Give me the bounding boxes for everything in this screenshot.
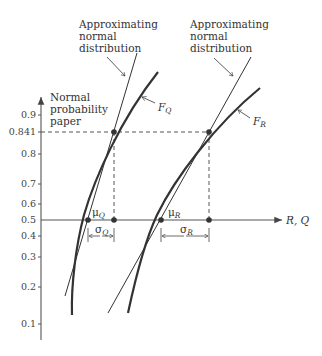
dashed-guides [41,132,209,220]
points [85,129,212,223]
approx-normal-line-r [108,57,251,313]
y-tick-label: 0.8 [21,148,36,159]
y-tick-label: 0.4 [21,230,36,241]
sigma-q-label: σQ [95,223,108,237]
fr-pointer [238,110,250,118]
approx-left-label: Approximating [78,18,158,30]
y-tick-label: 0.3 [21,251,36,262]
normal-probability-paper-diagram: 0.9 0.841 0.8 0.7 0.6 0.5 0.4 0.3 0.2 0.… [0,0,322,356]
fr-label: FR [252,115,266,129]
y-tick-label: 0.9 [21,109,36,120]
mu-r-label: μR [168,206,181,220]
y-axis-title: Normal [50,91,91,103]
mu-q-label: μQ [92,206,105,220]
y-tick-label: 0.5 [21,214,36,225]
y-tick-label: 0.2 [21,281,36,292]
approx-left-pointer [107,57,125,76]
approx-left-label: normal [79,30,117,42]
fr-curve [128,88,260,313]
approx-right-pointer [214,58,233,76]
approx-left-label: distribution [79,42,141,54]
x-axis-label: R, Q [285,214,310,227]
y-tick-label: 0.1 [21,318,36,329]
approx-right-label: Approximating [189,18,269,30]
y-axis-title: paper [50,115,82,127]
sigma-r-label: σR [180,223,193,237]
fq-pointer [142,97,155,103]
y-tick-label: 0.841 [9,126,36,137]
y-axis-title: probability [50,103,108,115]
approx-right-label: normal [190,30,228,42]
y-tick-label: 0.7 [21,178,36,189]
y-tick-label: 0.6 [21,198,36,209]
approx-right-label: distribution [190,42,252,54]
fq-label: FQ [157,101,171,115]
